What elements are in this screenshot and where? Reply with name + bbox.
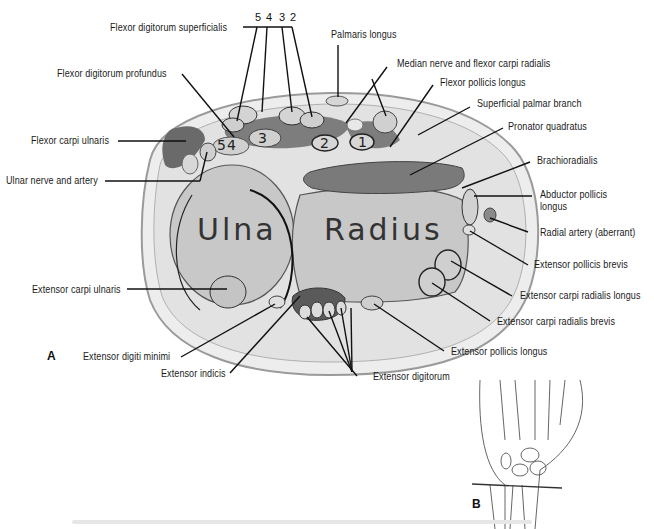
label-ulnar-nerve-and-artery: Ulnar nerve and artery [6, 174, 98, 186]
fdp-number-5: 5 [217, 137, 226, 153]
label-pronator-quadratus: Pronator quadratus [508, 120, 587, 132]
fds-number-2: 2 [290, 11, 296, 23]
label-extensor-pollicis-brevis: Extensor pollicis brevis [534, 258, 628, 270]
label-radial-artery-aberrant: Radial artery (aberrant) [540, 226, 635, 238]
radius-label: Radius [324, 212, 443, 247]
label-median-nerve-and-fcr: Median nerve and flexor carpi radialis [397, 57, 550, 69]
label-flexor-carpi-ulnaris: Flexor carpi ulnaris [31, 134, 109, 146]
label-superficial-palmar-branch: Superficial palmar branch [477, 97, 582, 109]
fds-number-3: 3 [279, 11, 285, 23]
label-extensor-carpi-ulnaris: Extensor carpi ulnaris [32, 283, 121, 295]
label-palmaris-longus: Palmaris longus [331, 28, 397, 40]
fds-number-4: 4 [266, 11, 272, 23]
hand-skeleton-sketch [472, 380, 583, 529]
label-extensor-digiti-minimi: Extensor digiti minimi [83, 350, 170, 362]
wrist-cross-section-figure: Ulna Radius 5 4 3 2 5 4 3 2 1 Flexor dig… [0, 0, 654, 529]
fdp-number-4: 4 [227, 137, 236, 153]
compartment-number-2: 2 [320, 135, 329, 151]
label-abductor-pollicis-longus-line2: longus [540, 200, 567, 212]
label-extensor-carpi-radialis-brevis: Extensor carpi radialis brevis [497, 315, 615, 327]
figure-caption-faint [72, 520, 532, 524]
panel-label-a: A [47, 349, 56, 363]
label-abductor-pollicis-longus-line1: Abductor pollicis [540, 188, 607, 200]
fds-number-5: 5 [255, 11, 261, 23]
label-extensor-digitorum: Extensor digitorum [373, 370, 450, 382]
ulna-label: Ulna [197, 212, 277, 247]
label-flexor-digitorum-profundus: Flexor digitorum profundus [57, 67, 167, 79]
panel-label-b: B [472, 497, 481, 511]
label-extensor-pollicis-longus: Extensor pollicis longus [451, 345, 547, 357]
label-extensor-carpi-radialis-longus: Extensor carpi radialis longus [520, 289, 641, 301]
compartment-number-3: 3 [258, 130, 267, 146]
label-flexor-pollicis-longus: Flexor pollicis longus [440, 76, 526, 88]
label-flexor-digitorum-superficialis: Flexor digitorum superficialis [110, 21, 227, 33]
compartment-number-1: 1 [358, 134, 367, 150]
label-extensor-indicis: Extensor indicis [161, 367, 226, 379]
label-brachioradialis: Brachioradialis [537, 154, 598, 166]
